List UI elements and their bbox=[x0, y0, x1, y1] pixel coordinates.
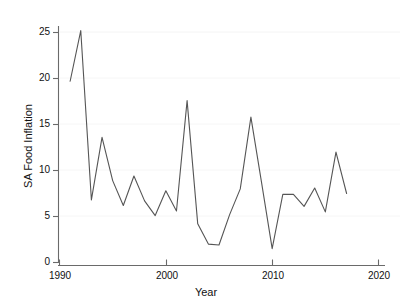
x-tick-label-2010: 2010 bbox=[253, 270, 293, 281]
x-tick-label-2000: 2000 bbox=[147, 270, 187, 281]
x-axis bbox=[58, 260, 385, 266]
gridline-group bbox=[60, 32, 400, 216]
x-tick-label-2020: 2020 bbox=[359, 270, 399, 281]
line-chart-plot bbox=[0, 0, 412, 308]
y-tick-label-25: 25 bbox=[24, 26, 50, 37]
chart-container: 25 20 15 10 5 0 1990 2000 2010 2020 Year… bbox=[0, 0, 412, 308]
x-tick-label-1990: 1990 bbox=[40, 270, 80, 281]
y-tick-label-0: 0 bbox=[24, 256, 50, 267]
y-axis-title: SA Food Inflation bbox=[22, 56, 34, 236]
x-axis-title: Year bbox=[0, 286, 412, 298]
y-axis bbox=[53, 26, 59, 263]
